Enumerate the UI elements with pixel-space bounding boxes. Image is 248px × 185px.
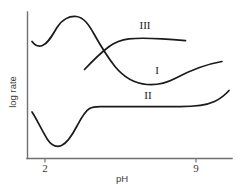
curve-label-i: I — [155, 64, 159, 76]
y-axis-title: log rate — [7, 76, 18, 108]
curve-label-ii: II — [144, 89, 152, 101]
x-tick-label-9: 9 — [193, 162, 199, 174]
curve-label-iii: III — [140, 19, 151, 31]
curve-ii-path — [32, 91, 229, 147]
x-tick-label-2: 2 — [42, 162, 48, 174]
x-axis-title: pH — [116, 173, 128, 184]
ph-rate-line-chart: 2 9 pH log rate III I II — [0, 0, 248, 185]
curve-i-path — [32, 16, 222, 84]
chart-figure: 2 9 pH log rate III I II — [0, 0, 248, 185]
